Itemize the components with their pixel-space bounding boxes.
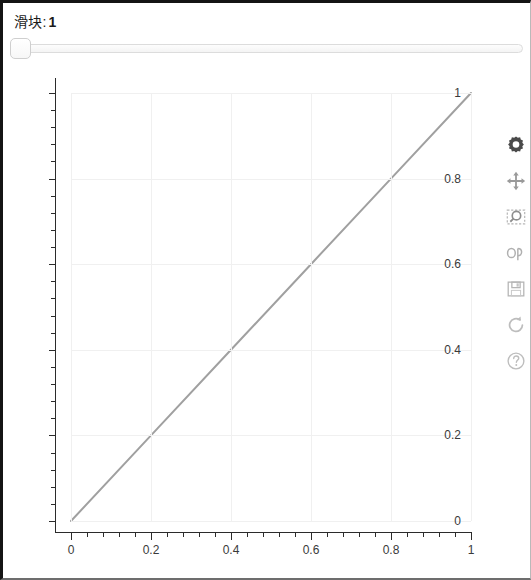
x-tick-minor: [375, 532, 376, 537]
x-tick-minor: [423, 532, 424, 537]
x-tick-minor: [119, 532, 120, 537]
gridline-horizontal: [71, 179, 471, 180]
x-tick-minor: [295, 532, 296, 537]
help-icon[interactable]: [501, 343, 531, 379]
y-tick-label: 1: [454, 86, 461, 100]
slider-track[interactable]: [18, 44, 523, 53]
x-tick-minor: [103, 532, 104, 537]
save-icon[interactable]: [501, 271, 531, 307]
x-tick-minor: [167, 532, 168, 537]
y-tick-minor: [51, 367, 56, 368]
x-tick-minor: [199, 532, 200, 537]
y-tick-major: [49, 435, 56, 436]
y-tick-minor: [51, 247, 56, 248]
gridline-vertical: [151, 93, 152, 521]
gridline-horizontal: [71, 350, 471, 351]
x-tick-major: [311, 532, 312, 540]
slider-label: 滑块:1: [14, 11, 57, 31]
configure-subplots-icon[interactable]: [501, 127, 531, 163]
y-tick-minor: [51, 127, 56, 128]
y-tick-major: [49, 179, 56, 180]
y-tick-minor: [51, 333, 56, 334]
y-tick-label: 0.6: [444, 257, 461, 271]
line-series-y-equals-x: [71, 93, 471, 521]
x-tick-label: 0: [68, 543, 75, 557]
x-tick-minor: [263, 532, 264, 537]
y-tick-minor: [51, 298, 56, 299]
x-tick-major: [71, 532, 72, 540]
x-tick-minor: [343, 532, 344, 537]
y-tick-major: [49, 521, 56, 522]
y-tick-minor: [51, 144, 56, 145]
x-tick-label: 0.2: [143, 543, 160, 557]
y-tick-label: 0: [454, 514, 461, 528]
figure-canvas[interactable]: 00.20.40.60.8100.20.40.60.81: [10, 63, 522, 575]
edit-axis-curve-icon[interactable]: [501, 235, 531, 271]
x-tick-major: [151, 532, 152, 540]
y-tick-label: 0.8: [444, 172, 461, 186]
y-tick-major: [49, 350, 56, 351]
y-tick-minor: [51, 384, 56, 385]
gridline-horizontal: [71, 521, 471, 522]
y-tick-minor: [51, 453, 56, 454]
y-tick-major: [49, 264, 56, 265]
x-tick-minor: [439, 532, 440, 537]
y-tick-minor: [51, 281, 56, 282]
x-tick-minor: [183, 532, 184, 537]
gridline-vertical: [71, 93, 72, 521]
x-tick-label: 0.8: [383, 543, 400, 557]
y-tick-minor: [51, 487, 56, 488]
y-tick-label: 0.2: [444, 428, 461, 442]
y-axis-spine: [55, 78, 56, 533]
x-tick-major: [231, 532, 232, 540]
x-tick-minor: [87, 532, 88, 537]
y-tick-minor: [51, 230, 56, 231]
y-tick-minor: [51, 401, 56, 402]
y-tick-minor: [51, 196, 56, 197]
slider-value: 1: [49, 14, 57, 30]
gridline-horizontal: [71, 264, 471, 265]
x-tick-minor: [359, 532, 360, 537]
y-tick-label: 0.4: [444, 343, 461, 357]
zoom-to-rect-icon[interactable]: [501, 199, 531, 235]
slider-label-text: 滑块:: [14, 14, 47, 30]
plot-data-area: [71, 93, 471, 521]
gridline-vertical: [391, 93, 392, 521]
y-tick-minor: [51, 161, 56, 162]
figure-toolbar: [499, 127, 531, 379]
x-tick-minor: [247, 532, 248, 537]
y-tick-major: [49, 93, 56, 94]
gridline-vertical: [471, 93, 472, 521]
y-tick-minor: [51, 418, 56, 419]
x-tick-minor: [455, 532, 456, 537]
pan-icon[interactable]: [501, 163, 531, 199]
x-tick-minor: [327, 532, 328, 537]
plot-axes: 00.20.40.60.8100.20.40.60.81: [55, 78, 471, 533]
slider-control[interactable]: [10, 38, 526, 58]
slider-handle[interactable]: [10, 38, 31, 59]
x-tick-minor: [407, 532, 408, 537]
x-tick-label: 0.4: [223, 543, 240, 557]
y-tick-minor: [51, 110, 56, 111]
y-tick-minor: [51, 504, 56, 505]
gridline-horizontal: [71, 93, 471, 94]
gridline-vertical: [311, 93, 312, 521]
reset-icon[interactable]: [501, 307, 531, 343]
x-tick-label: 1: [468, 543, 475, 557]
x-tick-major: [471, 532, 472, 540]
gridline-horizontal: [71, 435, 471, 436]
gridline-vertical: [231, 93, 232, 521]
y-tick-minor: [51, 470, 56, 471]
x-tick-minor: [279, 532, 280, 537]
application-window: 滑块:1 00.20.40.60.8100.20.40.60.81: [0, 0, 531, 580]
slider-panel: 滑块:1: [3, 3, 529, 61]
x-tick-minor: [215, 532, 216, 537]
x-tick-minor: [135, 532, 136, 537]
y-tick-minor: [51, 213, 56, 214]
x-tick-major: [391, 532, 392, 540]
x-tick-label: 0.6: [303, 543, 320, 557]
y-tick-minor: [51, 316, 56, 317]
